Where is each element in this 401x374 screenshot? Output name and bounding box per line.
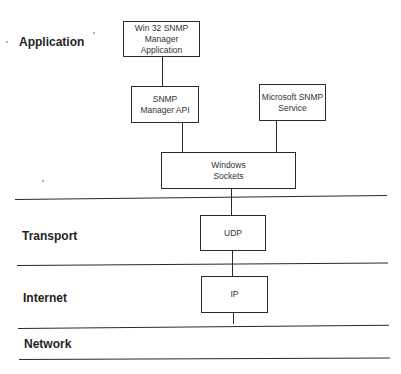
divider-internet-network [18,325,389,330]
win32-snmp-manager-application-box: Win 32 SNMP Manager Application [123,21,200,57]
windows-sockets-box: Windows Sockets [161,152,296,189]
box-text-line1: Win 32 SNMP [135,23,188,34]
speck [93,32,95,34]
connector-api-to-sockets [182,123,183,153]
box-text-line2: Sockets [213,171,243,182]
box-text-line2: Manager Application [124,34,199,56]
connector-service-to-sockets [276,121,277,152]
connector-win32-to-api [162,57,163,86]
speck [6,41,8,43]
divider-network-bottom [19,357,390,360]
layer-label-application: Application [19,35,84,49]
box-text-line2: Service [278,103,306,114]
box-text-line1: UDP [224,228,242,239]
ip-box: IP [201,276,268,313]
box-text-line1: Microsoft SNMP [262,92,323,103]
box-text-line1: IP [230,289,238,300]
layer-label-network: Network [24,337,71,351]
snmp-manager-api-box: SNMP Manager API [131,86,199,123]
connector-sockets-to-udp [231,188,232,215]
layer-label-internet: Internet [23,291,67,305]
layer-label-transport: Transport [22,229,77,243]
divider-application-transport [15,195,387,200]
connector-ip-to-network [233,313,234,324]
udp-box: UDP [200,215,266,251]
microsoft-snmp-service-box: Microsoft SNMP Service [259,84,326,121]
speck [42,180,44,182]
box-text-line2: Manager API [140,105,189,116]
box-text-line1: Windows [211,160,245,171]
divider-transport-internet [17,262,388,266]
box-text-line1: SNMP [153,94,178,105]
